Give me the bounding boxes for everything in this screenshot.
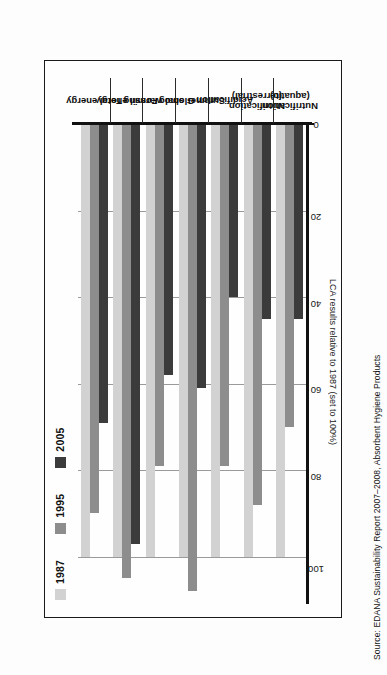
chart-figure: 198719952005 100806040200 LCA results re…: [44, 58, 344, 618]
bar-1995: [220, 124, 229, 466]
bar-1987: [80, 124, 89, 557]
legend-item: 1987: [54, 559, 66, 599]
bar-group: [208, 124, 241, 600]
legend-label: 1987: [54, 559, 66, 583]
bar-row: [285, 124, 294, 600]
bar-1987: [276, 124, 285, 557]
legend-item: 2005: [54, 427, 66, 467]
bar-2005: [98, 124, 107, 423]
bar-group: [110, 124, 143, 600]
legend-label: 2005: [54, 427, 66, 451]
axis-tick-label: 40: [310, 298, 321, 309]
bar-1995: [252, 124, 261, 505]
bar-row: [276, 124, 285, 600]
bar-2005: [131, 124, 140, 544]
bar-1987: [211, 124, 220, 557]
legend-swatch-1995: [54, 522, 65, 533]
bar-1995: [154, 124, 163, 466]
bar-row: [243, 124, 252, 600]
legend-swatch-2005: [54, 456, 65, 467]
bar-1995: [285, 124, 294, 427]
plot-area: [78, 124, 306, 600]
bar-2005: [196, 124, 205, 388]
figure-page: 198719952005 100806040200 LCA results re…: [0, 0, 387, 675]
bar-row: [229, 124, 238, 600]
legend-swatch-1987: [54, 589, 65, 600]
bar-row: [122, 124, 131, 600]
bar-2005: [294, 124, 303, 319]
bar-row: [163, 124, 172, 600]
bar-row: [98, 124, 107, 600]
category-cell: Nutrification(aquatic): [273, 78, 306, 124]
bar-row: [220, 124, 229, 600]
bar-2005: [229, 124, 238, 297]
bar-group: [143, 124, 176, 600]
bar-row: [261, 124, 270, 600]
legend-label: 1995: [54, 493, 66, 517]
bar-row: [178, 124, 187, 600]
bar-row: [187, 124, 196, 600]
bar-1995: [187, 124, 196, 591]
axis-tick-label: 20: [310, 212, 321, 223]
bar-2005: [261, 124, 270, 319]
legend-item: 1995: [54, 493, 66, 533]
bar-row: [154, 124, 163, 600]
bar-group: [78, 124, 111, 600]
bar-row: [145, 124, 154, 600]
bar-2005: [163, 124, 172, 375]
bar-row: [196, 124, 205, 600]
bar-group: [175, 124, 208, 600]
bar-row: [80, 124, 89, 600]
axis-tick-label: 60: [310, 385, 321, 396]
bar-row: [131, 124, 140, 600]
bar-row: [89, 124, 98, 600]
bar-1995: [89, 124, 98, 513]
bar-1987: [113, 124, 122, 557]
bar-1995: [122, 124, 131, 578]
value-axis-baseline: [72, 123, 314, 126]
bar-group: [273, 124, 306, 600]
category-labels: Total energyFossil energyGlobal warmingS…: [78, 78, 306, 124]
bar-row: [113, 124, 122, 600]
bar-1987: [178, 124, 187, 557]
category-label: Nutrification(aquatic): [262, 91, 318, 111]
bar-1987: [145, 124, 154, 557]
bar-row: [294, 124, 303, 600]
bar-groups: [78, 124, 306, 600]
bar-1987: [243, 124, 252, 557]
axis-tick-label: 100: [308, 563, 324, 574]
bar-group: [240, 124, 273, 600]
bar-row: [252, 124, 261, 600]
bar-row: [211, 124, 220, 600]
axis-title: LCA results relative to 1987 (set to 100…: [328, 124, 338, 600]
axis-tick-label: 80: [310, 471, 321, 482]
source-caption: Source: EDANA Sustainability Report 2007…: [372, 355, 382, 660]
rotated-figure-wrapper: 198719952005 100806040200 LCA results re…: [0, 0, 387, 675]
chart-legend: 198719952005: [54, 427, 66, 600]
